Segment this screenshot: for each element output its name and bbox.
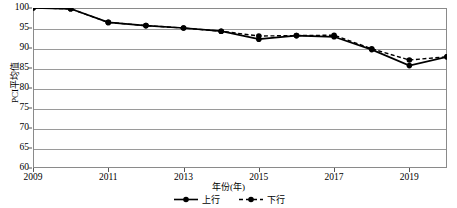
legend-swatch-dashed (238, 195, 264, 204)
y-axis-tick-mark (28, 28, 32, 29)
legend-item[interactable]: 下行 (238, 193, 285, 206)
x-axis-tick-mark (184, 168, 185, 172)
data-series-layer (33, 8, 447, 168)
data-point (143, 23, 149, 29)
chart-container: 6065707580859095100 PCI平均值 2009201120132… (0, 0, 457, 208)
data-point (68, 8, 74, 12)
y-axis-tick-mark (28, 148, 32, 149)
data-point (407, 63, 413, 69)
y-axis-title: PCI平均值 (8, 43, 21, 123)
y-axis-tick-mark (28, 128, 32, 129)
x-axis-tick-mark (409, 168, 410, 172)
y-axis-tick-mark (28, 8, 32, 9)
data-point (294, 33, 300, 39)
legend-label: 上行 (202, 193, 220, 206)
data-point (105, 20, 111, 26)
x-axis-tick-mark (259, 168, 260, 172)
y-axis-tick-mark (28, 88, 32, 89)
data-point (218, 28, 224, 34)
chart-legend: 上行下行 (0, 192, 457, 206)
legend-swatch-solid (173, 195, 199, 204)
series-line-上行 (33, 8, 447, 66)
data-point (444, 54, 447, 60)
data-point (256, 33, 262, 39)
data-point (407, 57, 413, 63)
x-axis-tick-mark (33, 168, 34, 172)
y-axis-tick-mark (28, 108, 32, 109)
series-line-下行 (33, 8, 447, 60)
y-axis-tick-mark (28, 48, 32, 49)
y-axis-tick-mark (28, 68, 32, 69)
data-point (369, 46, 375, 52)
y-axis-tick-label: 100 (15, 3, 29, 13)
legend-item[interactable]: 上行 (173, 193, 220, 206)
legend-label: 下行 (267, 193, 285, 206)
x-axis-tick-mark (334, 168, 335, 172)
data-point (331, 32, 337, 38)
x-axis-tick-mark (108, 168, 109, 172)
data-point (181, 25, 187, 31)
data-point (33, 8, 36, 11)
